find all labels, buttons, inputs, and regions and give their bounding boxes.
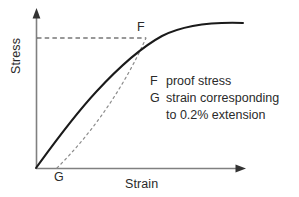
legend-entry-g: G strain corresponding [150, 91, 295, 106]
legend-key-g: G [150, 91, 166, 106]
legend-text-g: strain corresponding [166, 91, 279, 106]
legend-text-f: proof stress [166, 74, 231, 89]
y-axis [33, 8, 41, 168]
x-axis [36, 164, 246, 172]
legend-entry-f: F proof stress [150, 74, 295, 89]
x-axis-title: Strain [125, 178, 158, 191]
legend-text-g-continuation: to 0.2% extension [166, 108, 295, 123]
point-label-g: G [54, 171, 64, 184]
legend: F proof stress G strain corresponding to… [150, 74, 295, 123]
legend-key-f: F [150, 74, 166, 89]
y-axis-title: Stress [10, 38, 23, 74]
stress-strain-figure: Stress Strain F G F proof stress G strai… [0, 0, 299, 197]
point-label-f: F [137, 21, 145, 34]
